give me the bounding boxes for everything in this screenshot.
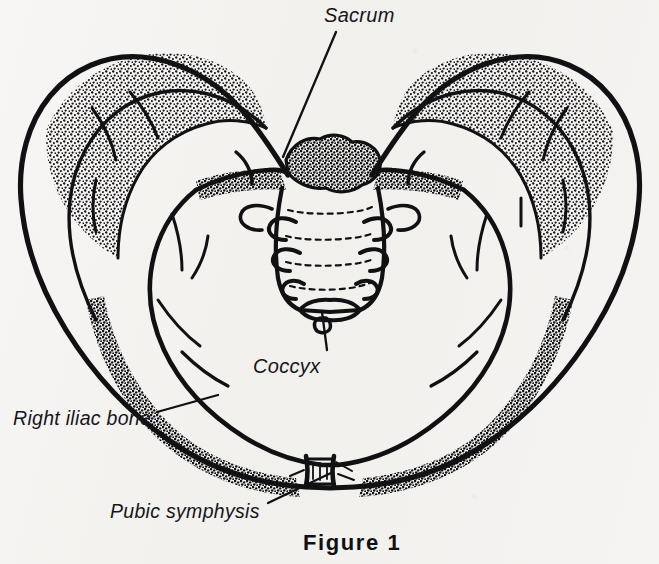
label-right-iliac-bone: Right iliac bone	[13, 407, 151, 430]
pelvis-anatomical-drawing	[0, 0, 659, 564]
label-coccyx: Coccyx	[253, 355, 320, 378]
label-sacrum: Sacrum	[324, 4, 395, 27]
acetabular-arcs	[182, 352, 477, 386]
label-pubic-symphysis: Pubic symphysis	[110, 500, 260, 523]
sacral-transverse-lines	[286, 207, 374, 290]
sacral-foramina	[269, 218, 391, 299]
left-pubic-body	[306, 456, 308, 486]
right-pubic-body	[333, 456, 335, 486]
figure-container: Sacrum Coccyx Right iliac bone Pubic sym…	[0, 0, 659, 564]
figure-caption: Figure 1	[303, 530, 401, 556]
